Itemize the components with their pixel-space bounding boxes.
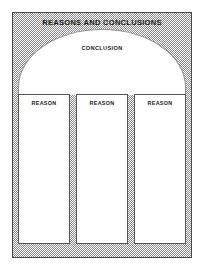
reason-column-label: REASON <box>135 100 185 106</box>
worksheet-frame: REASONS AND CONCLUSIONS CONCLUSION REASO… <box>12 12 192 258</box>
reason-column[interactable]: REASON <box>76 94 128 244</box>
conclusion-label: CONCLUSION <box>19 45 185 51</box>
reason-writing-area[interactable] <box>19 109 69 243</box>
reason-columns: REASON REASON REASON <box>18 94 186 244</box>
worksheet-page: REASONS AND CONCLUSIONS CONCLUSION REASO… <box>0 0 204 270</box>
reason-column[interactable]: REASON <box>134 94 186 244</box>
reason-column[interactable]: REASON <box>18 94 70 244</box>
reason-column-label: REASON <box>19 100 69 106</box>
reason-writing-area[interactable] <box>135 109 185 243</box>
conclusion-arch-icon: CONCLUSION <box>18 29 186 89</box>
reason-writing-area[interactable] <box>77 109 127 243</box>
page-title: REASONS AND CONCLUSIONS <box>13 18 191 27</box>
reason-column-label: REASON <box>77 100 127 106</box>
